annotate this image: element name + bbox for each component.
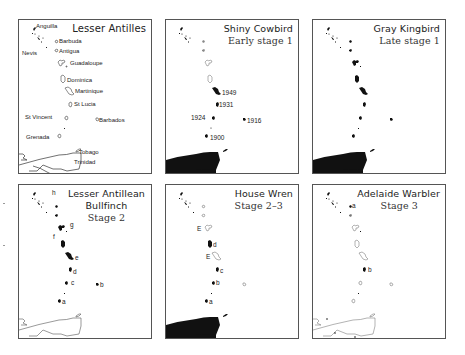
stage-label: Early stage 1	[224, 35, 293, 47]
year-label-st-vincent: 1924	[191, 114, 205, 121]
edge-mark	[3, 245, 5, 246]
stage-label: Stage 2–3	[235, 200, 283, 212]
species-name: Gray Kingbird	[374, 23, 440, 34]
subspecies-label-d: d	[213, 241, 217, 248]
edge-mark	[3, 203, 5, 204]
species-name-line1: Lesser Antillean	[68, 188, 145, 200]
panel-title: Lesser Antillean Bullfinch Stage 2	[68, 188, 145, 224]
map-panel-adelaide-warbler: Adelaide Warbler Stage 3 a b	[312, 184, 446, 339]
subspecies-label-b: b	[100, 281, 104, 288]
panel-title: Lesser Antilles	[72, 23, 146, 35]
subspecies-label-b: b	[368, 266, 372, 273]
subspecies-label-d: d	[73, 268, 77, 275]
subspecies-label-b: b	[216, 279, 220, 286]
subspecies-label-a: a	[352, 202, 356, 209]
panel-title: House Wren Stage 2–3	[235, 188, 293, 212]
subspecies-label-h: h	[52, 189, 56, 196]
label-guadeloupe: Guadaloupe	[70, 60, 103, 67]
species-name: Shiny Cowbird	[224, 23, 293, 34]
label-anguilla: Anguilla	[36, 23, 57, 30]
label-nevis: Nevis	[22, 50, 37, 57]
panel-title: Gray Kingbird Late stage 1	[374, 23, 440, 47]
species-name: Adelaide Warbler	[357, 188, 440, 199]
subspecies-label-a: a	[209, 298, 213, 305]
year-label-grenada: 1900	[210, 134, 224, 141]
subspecies-label-a: a	[62, 298, 66, 305]
year-label-st-lucia: 1931	[219, 101, 233, 108]
map-panel-shiny-cowbird: Shiny Cowbird Early stage 1 1949 1931 19…	[165, 19, 299, 174]
label-barbados: Barbados	[99, 117, 125, 124]
map-panel-house-wren: House Wren Stage 2–3 E d E c b a	[165, 184, 299, 339]
map-panel-lesser-antilles: Lesser Antilles Anguilla Barbuda Nevis A…	[18, 19, 152, 174]
extinct-label-guadeloupe: E	[197, 225, 201, 232]
species-name-line2: Bullfinch	[68, 200, 145, 212]
label-dominica: Dominica	[67, 77, 92, 84]
label-antigua: Antigua	[59, 48, 79, 55]
panel-title: Shiny Cowbird Early stage 1	[224, 23, 293, 47]
year-label-martinique: 1949	[222, 89, 236, 96]
subspecies-label-e: e	[75, 254, 79, 261]
label-st-lucia: St Lucia	[74, 101, 96, 108]
map-panel-gray-kingbird: Gray Kingbird Late stage 1	[312, 19, 446, 174]
label-grenada: Grenada	[26, 134, 49, 141]
stage-label: Late stage 1	[374, 35, 440, 47]
subspecies-label-c: c	[220, 267, 223, 274]
subspecies-label-f: f	[53, 233, 55, 240]
year-label-barbados: 1916	[247, 117, 261, 124]
label-barbuda: Barbuda	[59, 38, 82, 45]
species-name: House Wren	[235, 188, 293, 199]
label-st-vincent: St Vincent	[25, 114, 52, 121]
label-tobago: Tobago	[79, 149, 99, 156]
label-trinidad: Trinidad	[74, 159, 95, 166]
subspecies-label-c: c	[71, 279, 74, 286]
stage-label: Stage 2	[68, 212, 145, 224]
label-martinique: Martinique	[75, 88, 103, 95]
stage-label: Stage 3	[357, 200, 418, 212]
subspecies-label-g: g	[70, 221, 74, 228]
extinct-label-martinique: E	[206, 253, 210, 260]
map-panel-lesser-antillean-bullfinch: Lesser Antillean Bullfinch Stage 2 h g f…	[18, 184, 152, 339]
panel-title: Adelaide Warbler Stage 3	[357, 188, 440, 212]
